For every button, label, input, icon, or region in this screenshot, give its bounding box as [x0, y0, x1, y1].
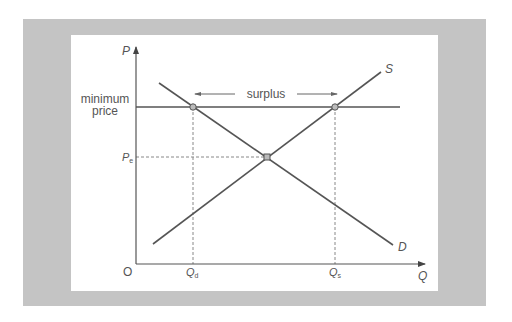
- supply-demand-diagram: surplus P Q O S D minimum price Pe Qd Qs: [0, 0, 512, 322]
- supply-label: S: [385, 62, 393, 76]
- qs-point: [332, 104, 338, 110]
- minimum-price-label-2: price: [92, 104, 118, 118]
- x-axis-label: Q: [418, 269, 427, 283]
- qd-point: [190, 104, 196, 110]
- qd-label: Qd: [186, 266, 199, 279]
- surplus-label: surplus: [247, 87, 286, 101]
- demand-label: D: [398, 240, 407, 254]
- pe-label: Pe: [122, 151, 133, 164]
- origin-label: O: [123, 265, 132, 279]
- guide-lines: [136, 107, 335, 264]
- qs-label: Qs: [329, 266, 342, 279]
- y-axis-label: P: [122, 44, 130, 58]
- equilibrium-point: [264, 154, 270, 160]
